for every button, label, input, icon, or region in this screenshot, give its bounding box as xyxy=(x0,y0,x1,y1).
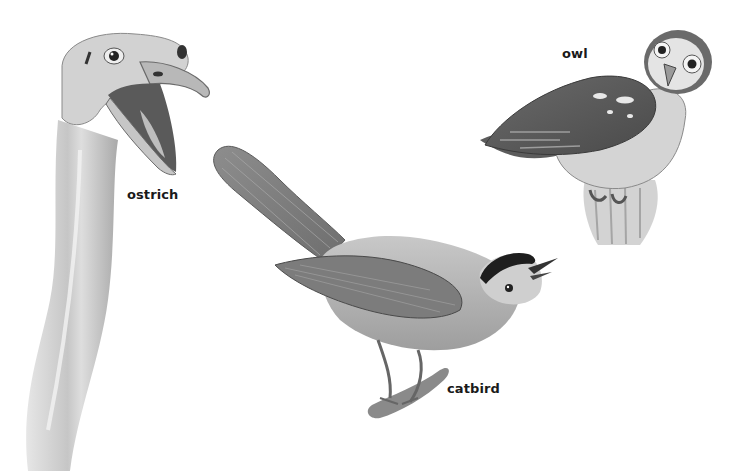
catbird-drawing xyxy=(214,146,558,418)
ostrich-drawing xyxy=(26,33,209,471)
owl-label: owl xyxy=(562,46,588,61)
ostrich-label: ostrich xyxy=(127,187,178,202)
owl-drawing xyxy=(480,30,712,245)
catbird-label: catbird xyxy=(447,381,500,396)
bird-illustration: ostrich owl catbird xyxy=(0,0,739,471)
